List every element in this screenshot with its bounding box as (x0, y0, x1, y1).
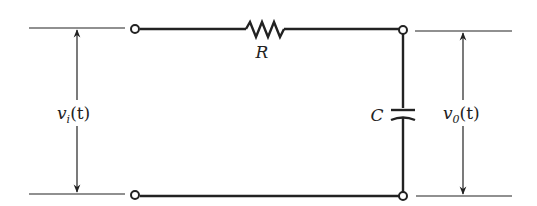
capacitor-label: C (370, 105, 383, 125)
top-wire (140, 22, 403, 37)
output-terminal-top (399, 26, 407, 34)
input-terminal-top (131, 25, 139, 33)
output-voltage-label: v0(t) (443, 103, 480, 126)
resistor-symbol (246, 22, 284, 37)
resistor-label: R (255, 42, 269, 62)
input-terminal-bottom (131, 191, 139, 199)
output-terminal-bottom (399, 192, 407, 200)
terminals (131, 25, 407, 200)
capacitor-branch (391, 33, 415, 192)
input-voltage-label: vi(t) (57, 103, 90, 126)
rc-circuit-diagram: vi(t) R C v0(t) (0, 0, 537, 206)
